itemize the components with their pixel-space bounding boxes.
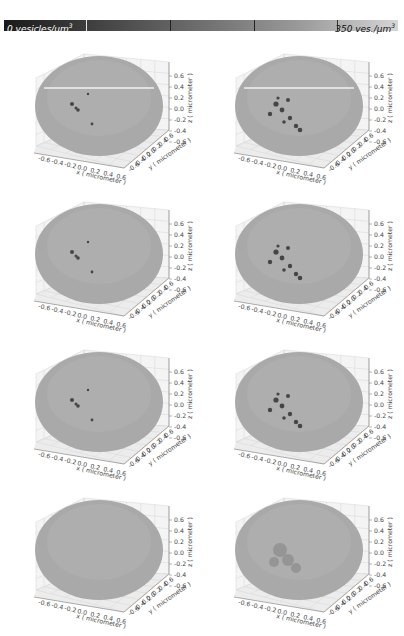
svg-text:-0.4: -0.4 (174, 275, 186, 282)
svg-text:0.2: 0.2 (174, 538, 184, 545)
svg-text:-0.4: -0.4 (51, 453, 64, 462)
svg-text:0.4: 0.4 (374, 83, 384, 90)
svg-text:0.2: 0.2 (174, 390, 184, 397)
colorbar-min-label: 0 vesicles/µm3 (7, 19, 73, 36)
svg-text:0.0: 0.0 (374, 253, 384, 260)
svg-text:z ( micrometer ): z ( micrometer ) (186, 221, 193, 271)
svg-text:x ( micrometer ): x ( micrometer ) (76, 612, 127, 629)
svg-text:0.6: 0.6 (174, 220, 184, 227)
svg-text:0.2: 0.2 (374, 242, 384, 249)
svg-text:-0.2: -0.2 (174, 560, 186, 567)
scatter3d-panel: 0.60.40.20.0-0.2-0.4-0.6z ( micrometer )… (204, 38, 400, 186)
svg-text:z ( micrometer ): z ( micrometer ) (186, 73, 193, 123)
svg-text:-0.4: -0.4 (51, 157, 64, 166)
scatter3d-panel: 0.60.40.20.0-0.2-0.4-0.6z ( micrometer )… (204, 482, 400, 630)
scatter3d-panel: 0.60.40.20.0-0.2-0.4-0.6z ( micrometer )… (4, 38, 200, 186)
svg-text:-0.2: -0.2 (174, 116, 186, 123)
svg-text:-0.4: -0.4 (374, 127, 386, 134)
svg-text:-0.4: -0.4 (174, 127, 186, 134)
svg-text:-0.2: -0.2 (264, 308, 277, 317)
svg-text:x ( micrometer ): x ( micrometer ) (276, 316, 327, 333)
svg-text:x ( micrometer ): x ( micrometer ) (76, 464, 127, 481)
svg-text:x ( micrometer ): x ( micrometer ) (76, 316, 127, 333)
svg-text:0.0: 0.0 (174, 105, 184, 112)
svg-text:0.4: 0.4 (374, 231, 384, 238)
svg-text:-0.4: -0.4 (174, 423, 186, 430)
svg-text:0.2: 0.2 (374, 390, 384, 397)
svg-text:-0.2: -0.2 (264, 456, 277, 465)
svg-text:0.2: 0.2 (174, 94, 184, 101)
svg-text:0.2: 0.2 (174, 242, 184, 249)
scatter3d-panel: 0.60.40.20.0-0.2-0.4-0.6z ( micrometer )… (204, 186, 400, 334)
svg-text:z ( micrometer ): z ( micrometer ) (386, 369, 393, 419)
svg-text:0.6: 0.6 (374, 368, 384, 375)
svg-text:-0.2: -0.2 (374, 264, 386, 271)
svg-text:-0.2: -0.2 (64, 160, 77, 169)
svg-text:-0.2: -0.2 (264, 604, 277, 613)
svg-text:-0.2: -0.2 (64, 456, 77, 465)
svg-text:-0.4: -0.4 (51, 305, 64, 314)
svg-text:-0.2: -0.2 (374, 412, 386, 419)
svg-text:-0.2: -0.2 (64, 604, 77, 613)
svg-text:0.6: 0.6 (174, 368, 184, 375)
svg-text:z ( micrometer ): z ( micrometer ) (386, 221, 393, 271)
svg-text:0.0: 0.0 (174, 549, 184, 556)
svg-text:-0.4: -0.4 (374, 423, 386, 430)
colorbar-tick (254, 20, 255, 31)
svg-text:0.4: 0.4 (374, 379, 384, 386)
svg-text:0.4: 0.4 (174, 231, 184, 238)
svg-text:x ( micrometer ): x ( micrometer ) (76, 168, 127, 185)
svg-text:-0.2: -0.2 (264, 160, 277, 169)
svg-text:0.0: 0.0 (174, 253, 184, 260)
svg-text:0.6: 0.6 (374, 516, 384, 523)
svg-text:0.4: 0.4 (174, 83, 184, 90)
svg-text:-0.2: -0.2 (374, 560, 386, 567)
scatter3d-panel: 0.60.40.20.0-0.2-0.4-0.6z ( micrometer )… (4, 482, 200, 630)
svg-text:-0.2: -0.2 (374, 116, 386, 123)
scatter3d-panel: 0.60.40.20.0-0.2-0.4-0.6z ( micrometer )… (204, 334, 400, 482)
svg-text:-0.4: -0.4 (251, 453, 264, 462)
svg-text:-0.2: -0.2 (64, 308, 77, 317)
svg-text:-0.2: -0.2 (174, 264, 186, 271)
svg-text:x ( micrometer ): x ( micrometer ) (276, 464, 327, 481)
svg-text:0.6: 0.6 (374, 72, 384, 79)
svg-text:-0.4: -0.4 (374, 275, 386, 282)
svg-text:0.6: 0.6 (374, 220, 384, 227)
svg-text:x ( micrometer ): x ( micrometer ) (276, 612, 327, 629)
svg-text:z ( micrometer ): z ( micrometer ) (386, 73, 393, 123)
svg-text:0.2: 0.2 (374, 94, 384, 101)
svg-text:-0.4: -0.4 (251, 157, 264, 166)
svg-text:0.0: 0.0 (174, 401, 184, 408)
svg-text:-0.4: -0.4 (374, 571, 386, 578)
svg-text:0.4: 0.4 (174, 379, 184, 386)
svg-text:0.0: 0.0 (374, 549, 384, 556)
scatter3d-panel: 0.60.40.20.0-0.2-0.4-0.6z ( micrometer )… (4, 186, 200, 334)
svg-text:-0.2: -0.2 (174, 412, 186, 419)
svg-text:z ( micrometer ): z ( micrometer ) (186, 369, 193, 419)
colorbar-tick (86, 20, 87, 31)
svg-text:0.6: 0.6 (174, 72, 184, 79)
svg-text:0.2: 0.2 (374, 538, 384, 545)
svg-text:-0.4: -0.4 (174, 571, 186, 578)
svg-text:0.0: 0.0 (374, 401, 384, 408)
svg-text:0.4: 0.4 (374, 527, 384, 534)
svg-text:z ( micrometer ): z ( micrometer ) (186, 517, 193, 567)
svg-text:-0.4: -0.4 (251, 305, 264, 314)
svg-text:0.6: 0.6 (174, 516, 184, 523)
svg-text:z ( micrometer ): z ( micrometer ) (386, 517, 393, 567)
svg-text:-0.4: -0.4 (251, 601, 264, 610)
scatter3d-panel: 0.60.40.20.0-0.2-0.4-0.6z ( micrometer )… (4, 334, 200, 482)
colorbar-max-label: 350 ves./µm3 (335, 19, 395, 36)
colorbar-tick (170, 20, 171, 31)
svg-text:x ( micrometer ): x ( micrometer ) (276, 168, 327, 185)
svg-text:0.0: 0.0 (374, 105, 384, 112)
svg-text:0.4: 0.4 (174, 527, 184, 534)
colorbar: 0 vesicles/µm3 350 ves./µm3 (4, 20, 398, 31)
svg-text:-0.4: -0.4 (51, 601, 64, 610)
